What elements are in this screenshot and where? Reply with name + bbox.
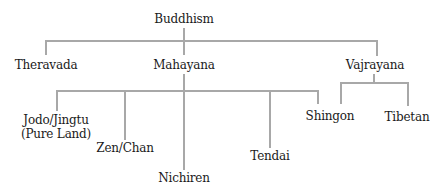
connector-vajrayana-bar [340, 82, 409, 84]
node-theravada: Theravada [15, 58, 78, 72]
node-tibetan: Tibetan [385, 110, 430, 124]
connector-tibetan [407, 82, 409, 106]
node-vajrayana: Vajrayana [346, 58, 404, 72]
node-nichiren: Nichiren [158, 171, 210, 185]
connector-zen [124, 90, 126, 140]
connector-nichiren [183, 90, 185, 170]
node-tendai: Tendai [250, 149, 289, 163]
connector-top-bar [45, 40, 378, 42]
connector-mahayana-in [183, 40, 185, 55]
node-jodo-pure-land: (Pure Land) [21, 127, 91, 141]
node-buddhism: Buddhism [154, 12, 213, 26]
node-mahayana: Mahayana [153, 58, 215, 72]
buddhism-tree-diagram: Buddhism Theravada Mahayana Vajrayana Jo… [0, 0, 446, 186]
connector-shingon-mahayana [317, 90, 319, 104]
connector-theravada [45, 40, 47, 55]
connector-jodo [56, 90, 58, 111]
connector-vajrayana-in [376, 40, 378, 56]
connector-mahayana-bar [56, 90, 319, 92]
connector-mahayana-stem [183, 74, 185, 91]
node-jodo-jingtu: Jodo/Jingtu [23, 113, 88, 127]
connector-shingon-vajrayana [340, 82, 342, 104]
connector-tendai [269, 90, 271, 148]
node-shingon: Shingon [306, 109, 355, 123]
node-zen-chan: Zen/Chan [96, 141, 153, 155]
